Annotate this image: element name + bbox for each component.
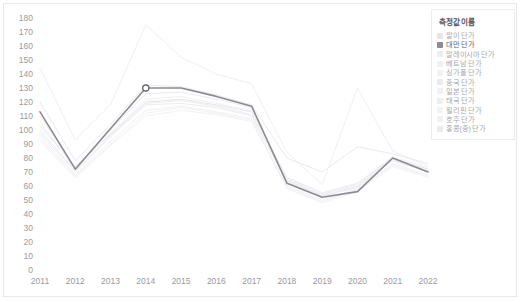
x-axis-tick-label: 2019 [313,276,332,286]
x-axis-tick-label: 2020 [348,276,367,286]
y-axis-tick-label: 70 [24,167,34,177]
legend-item-label: 말레이시아 단가 [446,50,495,59]
y-axis-tick-label: 140 [19,69,33,79]
legend-color-swatch-icon [437,116,443,122]
y-axis-tick-label: 10 [24,251,34,261]
y-axis-tick-label: 130 [19,83,33,93]
x-axis-tick-label: 2011 [31,276,50,286]
legend-item[interactable]: 말이 단가 [437,31,510,40]
legend-item[interactable]: 말레이시아 단가 [437,50,510,59]
x-axis-tick-label: 2021 [383,276,402,286]
legend-item[interactable]: 대만 단가 [437,40,510,49]
legend-item-list[interactable]: 말이 단가대만 단가말레이시아 단가베트남 단가싱가폴 단가중국 단가일본 단가… [437,31,510,133]
x-axis-tick-label: 2018 [277,276,296,286]
series-line[interactable] [40,88,428,197]
y-axis-tick-label: 50 [24,195,34,205]
series-line[interactable] [40,85,428,172]
x-axis-tick-label: 2012 [66,276,85,286]
legend-color-swatch-icon [437,61,443,67]
y-axis-tick-label: 20 [24,237,34,247]
y-axis-tick-label: 80 [24,153,34,163]
y-axis-tick-label: 90 [24,139,34,149]
legend-item[interactable]: 일본 단가 [437,87,510,96]
y-axis-tick-label: 30 [24,223,34,233]
legend-item[interactable]: 싱가폴 단가 [437,68,510,77]
series-line[interactable] [40,108,428,202]
highlighted-data-point-marker[interactable] [143,85,149,91]
legend-item-label: 말이 단가 [446,31,475,40]
legend-color-swatch-icon [437,88,443,94]
legend-item[interactable]: 태국 단가 [437,96,510,105]
legend-color-swatch-icon [437,33,443,39]
legend-color-swatch-icon [437,79,443,85]
x-axis-tick-label: 2022 [419,276,438,286]
legend-item[interactable]: 호주 단가 [437,115,510,124]
legend-item[interactable]: 중국 단가 [437,77,510,86]
legend-panel[interactable]: 측정값 이름 말이 단가대만 단가말레이시아 단가베트남 단가싱가폴 단가중국 … [431,9,515,140]
y-axis-tick-label: 100 [19,125,33,135]
series-line[interactable] [40,110,428,202]
legend-item-label: 일본 단가 [446,87,475,96]
series-line[interactable] [40,106,428,200]
y-axis-tick-label: 110 [19,111,33,121]
y-axis-tick-label: 180 [19,13,33,23]
y-axis-tick-label: 0 [28,265,33,275]
x-axis-tick-label: 2014 [136,276,155,286]
y-axis-tick-label: 40 [24,209,34,219]
legend-color-swatch-icon [437,126,443,132]
legend-item-label: 베트남 단가 [446,59,482,68]
legend-item[interactable]: 베트남 단가 [437,59,510,68]
legend-item-label: 중국 단가 [446,78,475,87]
y-axis-tick-label: 60 [24,181,34,191]
legend-item[interactable]: 홍콩(중) 단가 [437,124,510,133]
legend-item-label: 태국 단가 [446,96,475,105]
legend-color-swatch-icon [437,107,443,113]
legend-item-label: 대만 단가 [446,40,475,49]
legend-item-label: 홍콩(중) 단가 [446,124,486,133]
legend-color-swatch-icon [437,98,443,104]
legend-item[interactable]: 필리핀 단가 [437,105,510,114]
y-axis-tick-label: 170 [19,27,33,37]
x-axis-tick-label: 2016 [207,276,226,286]
legend-color-swatch-icon [437,70,443,76]
legend-title: 측정값 이름 [439,16,510,27]
chart-screenshot: 0102030405060708090100110120130140150160… [0,0,523,302]
series-line[interactable] [40,25,428,185]
y-axis-tick-label: 150 [19,55,33,65]
y-axis-tick-label: 160 [19,41,33,51]
x-axis-tick-label: 2015 [172,276,191,286]
legend-color-swatch-icon [437,42,443,48]
y-axis-tick-label: 120 [19,97,33,107]
legend-item-label: 싱가폴 단가 [446,68,482,77]
legend-item-label: 필리핀 단가 [446,106,482,115]
legend-color-swatch-icon [437,51,443,57]
legend-item-label: 호주 단가 [446,115,475,124]
x-axis-tick-label: 2017 [242,276,261,286]
x-axis-tick-label: 2013 [101,276,120,286]
